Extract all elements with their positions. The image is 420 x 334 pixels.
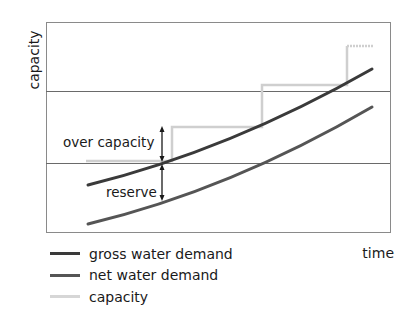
legend-swatch-net [50, 274, 80, 277]
legend-swatch-gross [50, 252, 80, 255]
legend-swatch-capacity [50, 295, 80, 298]
reserve-arrow-icon [160, 164, 165, 201]
legend-item-capacity: capacity [50, 286, 233, 308]
legend-label: net water demand [89, 267, 218, 283]
legend: gross water demand net water demand capa… [50, 243, 233, 308]
over-capacity-label: over capacity [63, 134, 154, 150]
legend-item-net-water-demand: net water demand [50, 265, 233, 287]
legend-item-gross-water-demand: gross water demand [50, 243, 233, 265]
legend-label: capacity [89, 289, 148, 305]
net-water-demand-line [88, 107, 372, 224]
reserve-label: reserve [106, 184, 157, 200]
y-axis-label-text: capacity [26, 30, 42, 89]
y-axis-label: capacity [22, 22, 46, 98]
over-capacity-arrow-icon [160, 126, 165, 162]
legend-label: gross water demand [89, 246, 233, 262]
x-axis-label: time [362, 245, 394, 261]
